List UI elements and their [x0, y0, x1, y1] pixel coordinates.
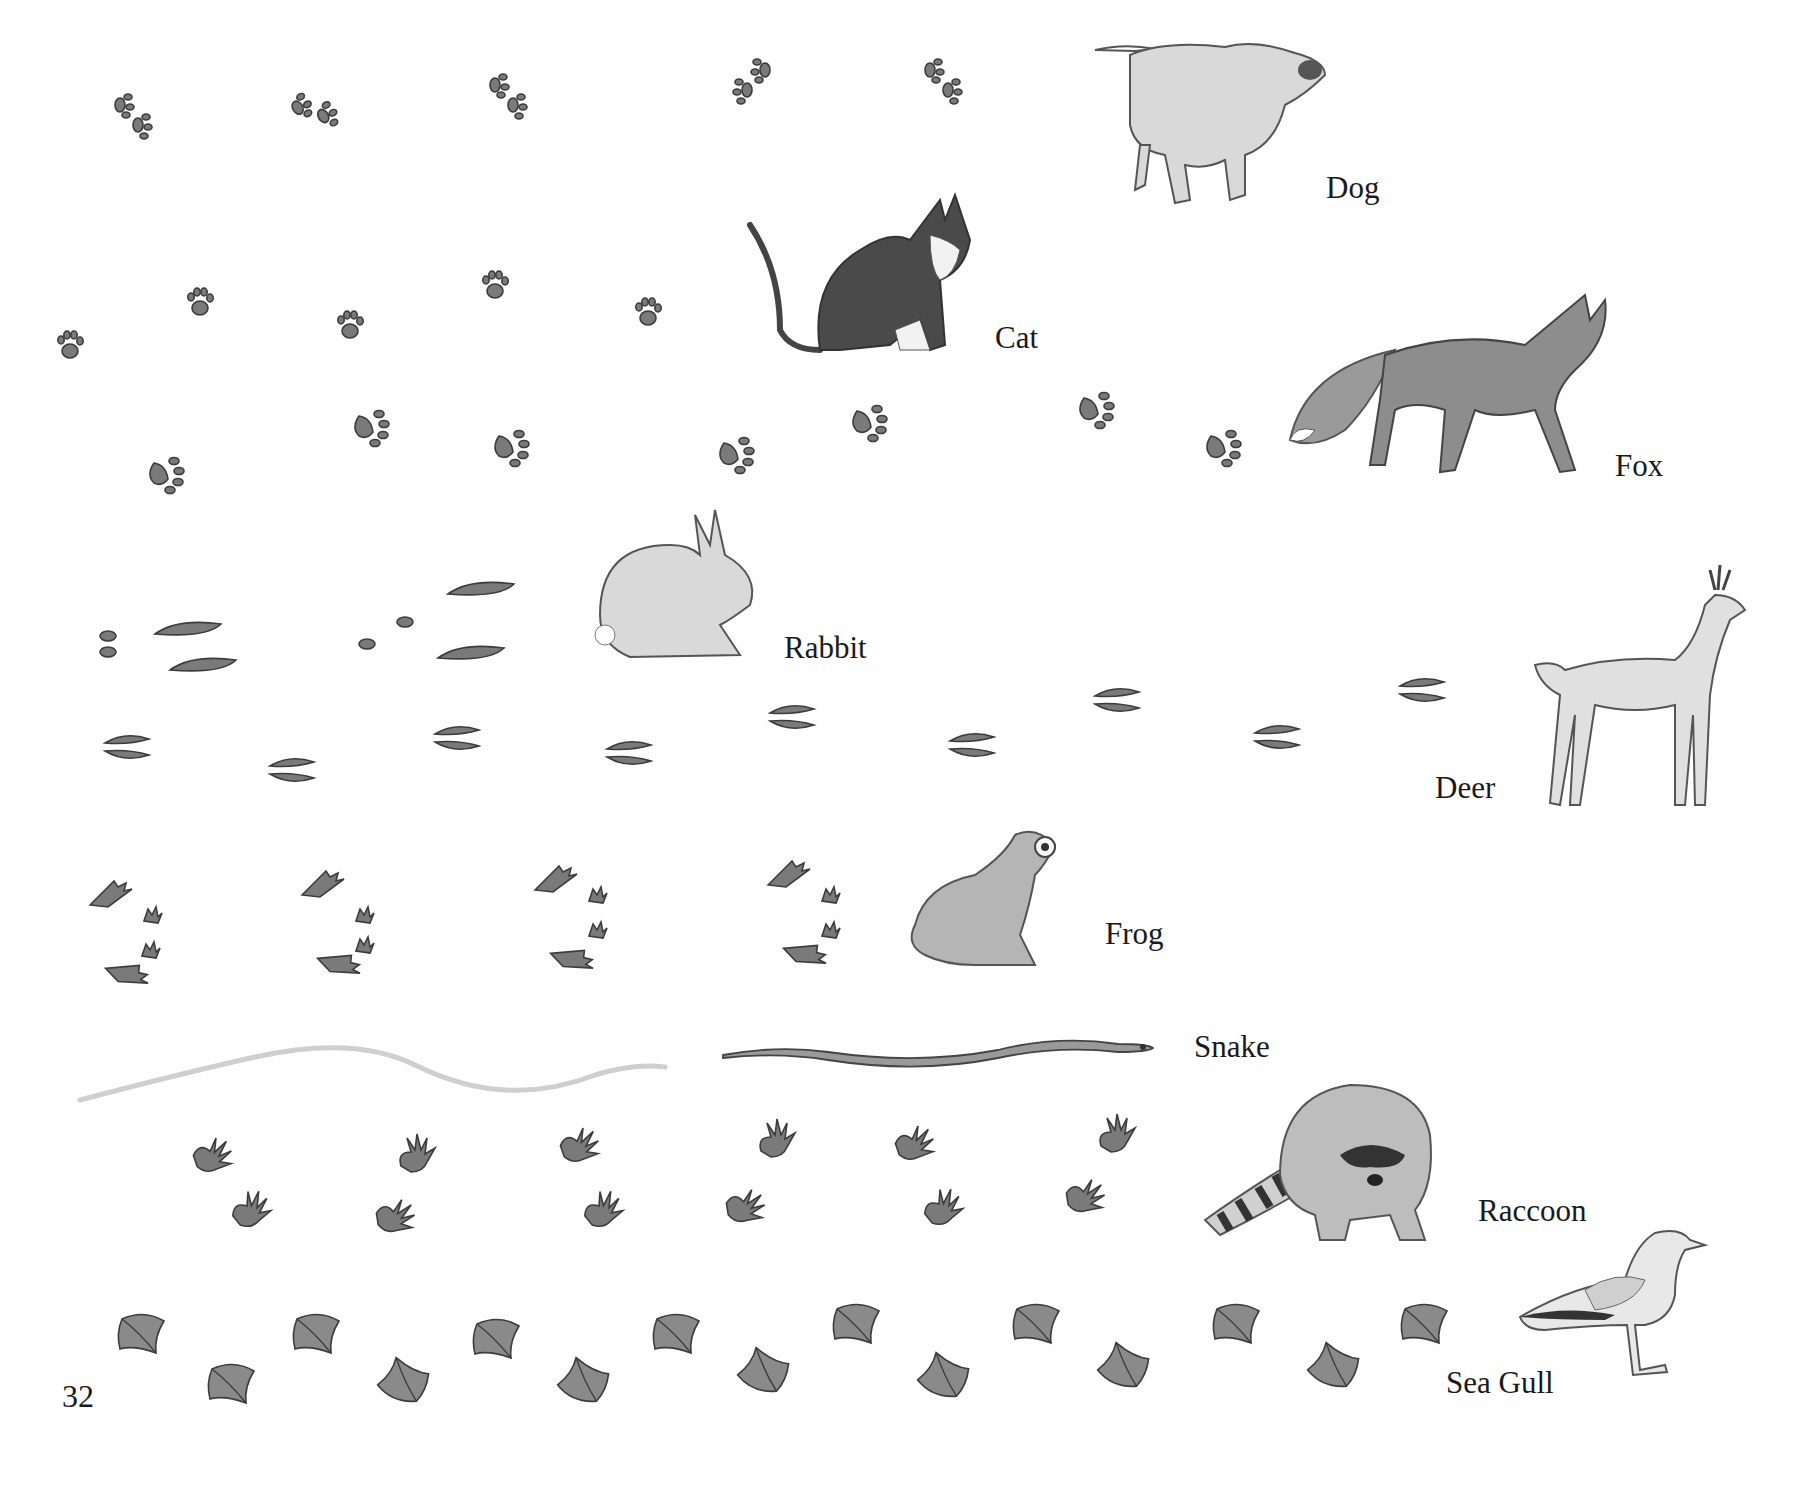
- gull-track: [555, 1350, 615, 1410]
- gull-track: [375, 1350, 435, 1410]
- fox-label: Fox: [1615, 450, 1663, 481]
- fox-track: [135, 445, 205, 505]
- gull-track: [735, 1340, 795, 1400]
- snake-label: Snake: [1194, 1031, 1270, 1062]
- deer-illustration: [1525, 565, 1775, 810]
- sea-gull-illustration: [1515, 1225, 1710, 1380]
- rabbit-illustration: [590, 505, 770, 665]
- gull-track: [825, 1295, 885, 1355]
- frog-illustration: [905, 825, 1080, 970]
- rabbit-label: Rabbit: [784, 632, 867, 663]
- deer-track: [100, 722, 160, 772]
- deer-track: [945, 720, 1005, 770]
- deer-track: [1090, 675, 1150, 725]
- sea-gull-label: Sea Gull: [1446, 1367, 1554, 1398]
- field-guide-page: Dog Cat Fox: [0, 0, 1805, 1487]
- gull-track: [915, 1345, 975, 1405]
- deer-track: [265, 745, 325, 795]
- fox-track: [340, 398, 410, 458]
- raccoon-track: [870, 1118, 980, 1248]
- deer-track: [430, 713, 490, 763]
- frog-track: [758, 845, 868, 995]
- fox-track: [1065, 380, 1135, 440]
- dog-track: [485, 75, 565, 155]
- gull-track: [200, 1355, 260, 1415]
- deer-label: Deer: [1435, 772, 1495, 803]
- frog-track: [292, 855, 402, 1005]
- snake-track: [75, 1035, 675, 1105]
- snake-illustration: [718, 1030, 1158, 1070]
- gull-track: [645, 1305, 705, 1365]
- page-number: 32: [62, 1380, 94, 1412]
- rabbit-track: [92, 628, 262, 708]
- deer-track: [1395, 665, 1455, 715]
- raccoon-track: [1040, 1110, 1150, 1240]
- raccoon-track: [700, 1115, 810, 1245]
- raccoon-track: [355, 1130, 465, 1250]
- deer-track: [765, 692, 825, 742]
- gull-track: [110, 1305, 170, 1365]
- fox-illustration: [1285, 290, 1615, 480]
- gull-track: [285, 1305, 345, 1365]
- cat-label: Cat: [995, 322, 1038, 353]
- dog-track: [725, 60, 785, 140]
- gull-track: [465, 1310, 525, 1370]
- raccoon-illustration: [1200, 1075, 1450, 1245]
- fox-track: [1192, 418, 1262, 478]
- raccoon-label: Raccoon: [1478, 1195, 1586, 1226]
- frog-track: [525, 850, 635, 1000]
- dog-illustration: [1095, 35, 1345, 215]
- frog-track: [80, 865, 190, 1015]
- cat-track: [330, 305, 370, 345]
- cat-illustration: [740, 180, 980, 360]
- dog-track: [110, 85, 170, 165]
- deer-track: [602, 728, 662, 778]
- frog-label: Frog: [1105, 918, 1164, 949]
- gull-track: [1305, 1335, 1365, 1395]
- cat-track: [180, 282, 220, 322]
- deer-track: [1250, 712, 1310, 762]
- dog-label: Dog: [1326, 172, 1379, 203]
- dog-track: [920, 60, 1000, 140]
- cat-track: [628, 292, 668, 332]
- gull-track: [1005, 1295, 1065, 1355]
- raccoon-track: [178, 1130, 288, 1250]
- fox-track: [838, 393, 908, 453]
- raccoon-track: [535, 1120, 645, 1250]
- gull-track: [1095, 1335, 1155, 1395]
- cat-track: [475, 265, 515, 305]
- gull-track: [1393, 1295, 1453, 1355]
- fox-track: [480, 418, 550, 478]
- rabbit-track: [355, 568, 525, 678]
- dog-track: [295, 75, 355, 155]
- cat-track: [50, 325, 90, 365]
- gull-track: [1205, 1295, 1265, 1355]
- fox-track: [705, 425, 775, 485]
